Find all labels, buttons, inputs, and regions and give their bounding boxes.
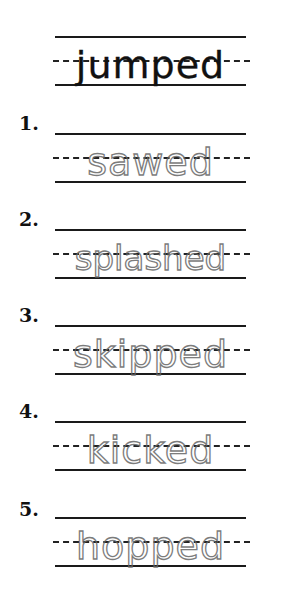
- item-number: 2.: [19, 210, 39, 229]
- trace-word: skipped: [59, 334, 242, 374]
- handwriting-guide-lines[interactable]: skipped: [55, 325, 246, 375]
- trace-word: splashed: [59, 238, 242, 278]
- trace-word: kicked: [59, 430, 242, 470]
- top-line: [55, 325, 246, 327]
- trace-word: hopped: [59, 526, 242, 566]
- item-number: 4.: [19, 402, 39, 421]
- item-number: 5.: [19, 500, 39, 519]
- handwriting-guide-lines[interactable]: sawed: [55, 133, 246, 183]
- handwriting-guide-lines[interactable]: hopped: [55, 517, 246, 567]
- top-line: [55, 517, 246, 519]
- item-number: 3.: [19, 306, 39, 325]
- model-word: jumped: [59, 45, 242, 85]
- item-number: 1.: [19, 114, 39, 133]
- trace-word: sawed: [59, 142, 242, 182]
- top-line: [55, 421, 246, 423]
- handwriting-guide-lines[interactable]: splashed: [55, 229, 246, 279]
- top-line: [55, 36, 246, 38]
- handwriting-guide-lines[interactable]: kicked: [55, 421, 246, 471]
- top-line: [55, 133, 246, 135]
- handwriting-guide-lines: jumped: [55, 36, 246, 86]
- top-line: [55, 229, 246, 231]
